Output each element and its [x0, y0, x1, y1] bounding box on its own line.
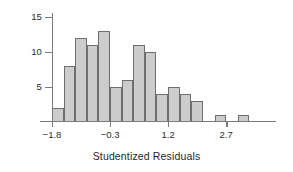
x-axis-tick-label: −0.3: [101, 130, 120, 140]
histogram-bar: [180, 94, 192, 122]
histogram-bar: [64, 66, 76, 122]
histogram-bar: [98, 31, 110, 122]
x-axis-tick: [52, 121, 53, 127]
y-axis-tick: [45, 52, 52, 53]
histogram-bar: [145, 52, 157, 122]
bar-series: [0, 0, 293, 172]
histogram-bar: [168, 87, 180, 122]
histogram-bar: [75, 38, 87, 122]
histogram-bar: [110, 87, 122, 122]
x-axis-tick: [226, 121, 227, 127]
histogram-bar: [156, 94, 168, 122]
y-axis-tick-label: 15: [31, 12, 42, 22]
x-axis-tick-label: 1.2: [161, 130, 174, 140]
y-axis-tick-label: 10: [31, 47, 42, 57]
x-axis-tick-label: −1.8: [43, 130, 62, 140]
x-axis-tick: [168, 121, 169, 127]
x-axis-line: [40, 121, 276, 122]
histogram-bar: [191, 101, 203, 122]
x-axis-tick: [110, 121, 111, 127]
histogram-bar: [52, 108, 64, 122]
histogram-chart: 51015 −1.8−0.31.22.7 Studentized Residua…: [0, 0, 293, 172]
y-axis-tick: [45, 17, 52, 18]
histogram-bar: [87, 45, 99, 122]
y-axis-line: [52, 13, 53, 122]
histogram-bar: [122, 80, 134, 122]
x-axis-title: Studentized Residuals: [0, 150, 293, 162]
x-axis-tick-label: 2.7: [220, 130, 233, 140]
y-axis-tick-label: 5: [37, 82, 42, 92]
y-axis-tick: [45, 87, 52, 88]
histogram-bar: [133, 45, 145, 122]
